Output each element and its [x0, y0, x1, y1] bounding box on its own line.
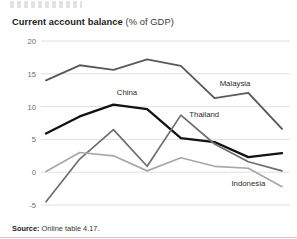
source-note: Source: Online table 4.17. — [12, 224, 100, 233]
source-text: Online table 4.17. — [42, 224, 100, 233]
series-line-china — [46, 105, 282, 157]
cropped-text-sliver — [10, 1, 82, 8]
chart-title-main: Current account balance — [12, 17, 123, 27]
series-label-malaysia: Malaysia — [220, 79, 251, 88]
y-axis-tick-label: 20 — [28, 37, 36, 46]
series-line-thailand — [46, 115, 282, 202]
series-line-malaysia — [46, 59, 282, 129]
chart-title: Current account balance (% of GDP) — [12, 17, 174, 27]
line-chart: -505101520200520062007200820092010201120… — [0, 33, 297, 213]
series-label-indonesia: Indonesia — [231, 179, 265, 188]
series-label-china: China — [117, 88, 138, 97]
y-axis-tick-label: 15 — [28, 70, 36, 79]
y-axis-tick-label: 0 — [32, 168, 36, 177]
y-axis-tick-label: -5 — [29, 201, 36, 210]
y-axis-tick-label: 10 — [28, 103, 36, 112]
source-label: Source: — [12, 224, 40, 233]
chart-title-unit: (% of GDP) — [126, 17, 174, 27]
bottom-divider — [0, 237, 297, 238]
figure-container: Current account balance (% of GDP) -5051… — [0, 0, 297, 239]
y-axis-tick-label: 5 — [32, 135, 36, 144]
series-label-thailand: Thailand — [189, 110, 219, 119]
chart-plot-area: -505101520200520062007200820092010201120… — [0, 33, 297, 213]
